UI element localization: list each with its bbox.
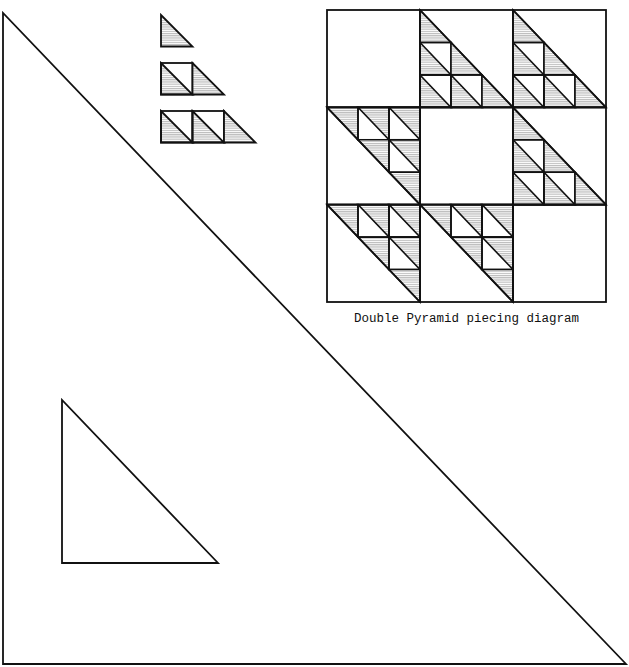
quilt-block-B — [327, 107, 420, 204]
small-triangle-template — [62, 400, 218, 563]
quilt-block-plain — [327, 10, 420, 107]
shaded-half-square — [451, 205, 482, 237]
quilt-block-B — [327, 205, 420, 302]
shaded-half-square — [513, 75, 544, 107]
piecing-steps — [161, 15, 256, 143]
shaded-half-square — [358, 205, 389, 237]
triangle-unit — [224, 111, 256, 143]
double-pyramid-quilt-grid — [327, 10, 606, 302]
block-outline — [327, 10, 420, 107]
quilt-block-A — [513, 10, 606, 107]
large-triangle-template — [3, 13, 626, 664]
shaded-half-square — [389, 107, 420, 139]
shaded-half-square — [420, 75, 451, 107]
shaded-half-square — [420, 42, 451, 74]
shaded-half-square — [389, 205, 420, 237]
shaded-half-square — [513, 172, 544, 204]
shaded-half-square — [544, 172, 575, 204]
pieced-square-unit — [193, 111, 225, 143]
pieced-square-unit — [161, 63, 193, 95]
shaded-half-square — [544, 75, 575, 107]
large-triangle-outline — [3, 13, 626, 664]
small-triangle-outline — [62, 400, 218, 563]
quilt-block-plain — [420, 107, 513, 204]
shaded-half-square — [389, 237, 420, 269]
shaded-half-square — [389, 140, 420, 172]
block-outline — [420, 107, 513, 204]
shaded-half-square — [482, 205, 513, 237]
triangle-unit — [193, 63, 225, 95]
pieced-square-unit — [161, 111, 193, 143]
triangle-unit — [161, 15, 193, 47]
quilt-block-A — [513, 107, 606, 204]
diagram-canvas — [0, 0, 629, 667]
shaded-half-square — [451, 75, 482, 107]
shaded-half-square — [482, 237, 513, 269]
shaded-half-square — [513, 42, 544, 74]
block-outline — [513, 205, 606, 302]
diagram-caption: Double Pyramid piecing diagram — [327, 312, 606, 326]
quilt-block-A — [420, 10, 513, 107]
quilt-block-plain — [513, 205, 606, 302]
shaded-half-square — [513, 140, 544, 172]
shaded-half-square — [358, 107, 389, 139]
quilt-block-B — [420, 205, 513, 302]
